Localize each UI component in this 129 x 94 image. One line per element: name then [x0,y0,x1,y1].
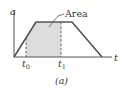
acceleration-time-diagram: a t Area t0 t1 (a) [0,0,129,94]
area-label: Area [64,8,88,19]
x-axis-label: t [114,52,119,63]
shaded-area-region [26,22,61,57]
diagram-canvas: a t Area t0 t1 (a) [0,0,129,94]
t1-subscript: 1 [62,63,66,71]
t0-subscript: 0 [26,63,30,71]
y-axis-label: a [10,6,16,17]
figure-caption: (a) [55,75,68,86]
t1-label: t1 [58,58,66,71]
t0-label: t0 [22,58,30,71]
